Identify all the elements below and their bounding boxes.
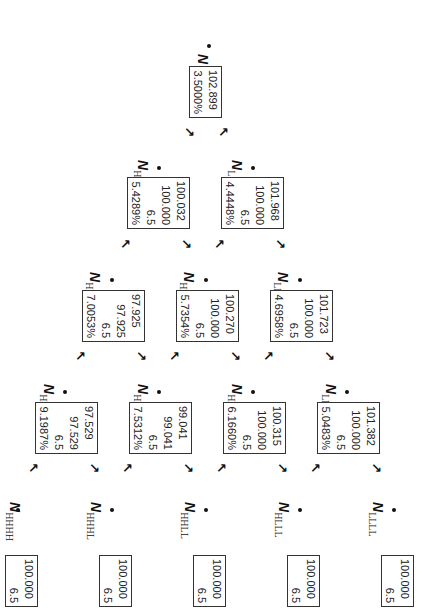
arrow-down-icon: ↗	[276, 462, 288, 474]
node-dot	[204, 508, 208, 512]
node-dot	[345, 390, 349, 394]
node-dot	[207, 44, 211, 48]
value-box: 97.925 97.925 6.5 7.0053%	[82, 290, 145, 342]
node-label: NH	[132, 160, 151, 177]
node-dot	[392, 508, 396, 512]
node-dot	[157, 166, 161, 170]
arrow-down-icon: ↗	[180, 238, 192, 250]
node-dot	[204, 278, 208, 282]
value-box: 101.968 100.000 6.5 4.4448%	[221, 177, 284, 229]
node-label: N	[192, 54, 211, 64]
node-dot	[63, 390, 67, 394]
arrow-up-icon: ↖	[27, 462, 39, 474]
node-label: NHHLL	[179, 502, 198, 539]
arrow-up-icon: ↖	[121, 462, 133, 474]
arrow-down-icon: ↗	[135, 350, 147, 362]
arrow-up-icon: ↖	[213, 238, 225, 250]
value-box: 100.000 6.5	[99, 555, 132, 607]
arrow-up-icon: ↖	[119, 238, 131, 250]
arrow-down-icon: ↗	[229, 350, 241, 362]
node-label: NHHHL	[85, 502, 104, 540]
arrow-up-icon: ↖	[74, 350, 86, 362]
value-box: 102.899 3.5000%	[189, 66, 222, 118]
node-dot	[157, 390, 161, 394]
arrow-up-icon: ↖	[309, 462, 321, 474]
arrow-up-icon: ↖	[262, 350, 274, 362]
node-dot	[110, 508, 114, 512]
value-box: 100.032 100.000 6.5 5.4289%	[127, 177, 190, 229]
node-dot	[298, 278, 302, 282]
node-label: NLLLL	[367, 502, 386, 537]
arrow-down-icon: ↗	[370, 462, 382, 474]
binomial-tree-diagram: N 102.899 3.5000% ↖ ↗ NH 100.032 100.000…	[0, 0, 423, 613]
arrow-up-icon: ↖	[215, 462, 227, 474]
value-box: 100.000 6.5	[381, 555, 414, 607]
value-box: 99.041 99.041 6.5 7.5312%	[129, 402, 192, 454]
value-box: 100.000 6.5	[5, 555, 38, 607]
value-box: 100.000 6.5	[287, 555, 320, 607]
value-box: 100.270 100.000 6.5 5.7354%	[176, 290, 239, 342]
arrow-down-icon: ↗	[88, 462, 100, 474]
arrow-down-icon: ↗	[323, 350, 335, 362]
arrow-down-icon: ↗	[183, 126, 195, 138]
node-dot	[251, 390, 255, 394]
value-box: 101.382 100.000 6.5 5.0483%	[317, 402, 380, 454]
node-dot	[110, 278, 114, 282]
arrow-up-icon: ↖	[217, 126, 229, 138]
node-dot	[251, 166, 255, 170]
arrow-up-icon: ↖	[168, 350, 180, 362]
value-box: 97.529 97.529 6.5 9.1987%	[35, 402, 98, 454]
arrow-down-icon: ↗	[182, 462, 194, 474]
value-box: 100.000 6.5	[193, 555, 226, 607]
node-dot	[298, 508, 302, 512]
value-box: 101.723 100.000 6.5 4.6958%	[270, 290, 333, 342]
value-box: 100.315 100.000 6.5 6.1660%	[223, 402, 286, 454]
node-label: NHLLL	[273, 502, 292, 538]
node-label: NL	[226, 160, 245, 176]
arrow-down-icon: ↗	[274, 238, 286, 250]
node-label: NHHHH	[4, 502, 23, 541]
